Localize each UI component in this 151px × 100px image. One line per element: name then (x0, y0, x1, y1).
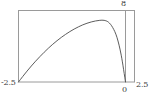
data-curve (19, 20, 126, 82)
plot-frame (19, 11, 135, 83)
x-axis-zero-label: 0 (122, 86, 127, 94)
x-axis-min-label: -2.5 (1, 79, 16, 87)
plot-canvas (0, 0, 151, 100)
x-axis-max-label: 2.5 (136, 81, 148, 89)
y-axis-max-label: 8 (121, 0, 126, 8)
plot-figure: 8 -2.5 0 2.5 (0, 0, 151, 100)
